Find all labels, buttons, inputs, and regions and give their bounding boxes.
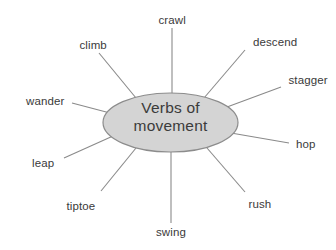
spoke-line-descend bbox=[204, 50, 245, 98]
node-label-tiptoe: tiptoe bbox=[67, 200, 96, 213]
spoke-line-rush bbox=[207, 148, 245, 192]
center-node-line1: Verbs of bbox=[141, 99, 199, 116]
node-label-wander: wander bbox=[26, 95, 64, 108]
center-node-label: Verbs of movement bbox=[103, 99, 238, 135]
spoke-line-tiptoe bbox=[101, 148, 136, 191]
node-label-crawl: crawl bbox=[159, 14, 186, 27]
node-label-stagger: stagger bbox=[289, 74, 328, 87]
spoke-line-climb bbox=[99, 53, 136, 98]
node-label-leap: leap bbox=[32, 157, 54, 170]
spoke-line-leap bbox=[64, 136, 113, 158]
center-node-line2: movement bbox=[103, 117, 238, 135]
word-web-diagram: Verbs of movement crawl climb descend st… bbox=[0, 0, 336, 250]
node-label-swing: swing bbox=[156, 226, 186, 239]
spoke-line-hop bbox=[231, 133, 289, 143]
node-label-rush: rush bbox=[249, 198, 272, 211]
node-label-hop: hop bbox=[296, 138, 316, 151]
node-label-descend: descend bbox=[253, 36, 297, 49]
node-label-climb: climb bbox=[80, 39, 107, 52]
